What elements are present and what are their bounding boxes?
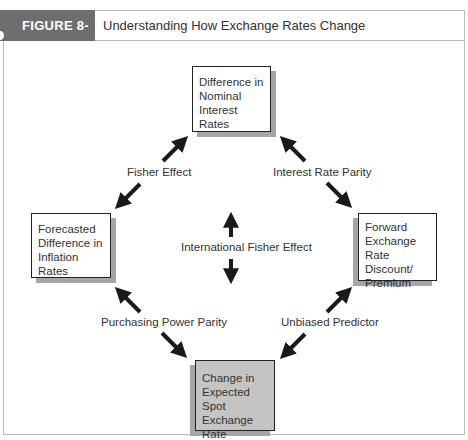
box-line: Interest Rates xyxy=(199,103,264,131)
label-international-fisher-effect: International Fisher Effect xyxy=(181,241,312,253)
box-line: Nominal xyxy=(199,89,264,103)
box-nominal-interest-rates: Difference in Nominal Interest Rates xyxy=(192,66,271,132)
arrow-up-up-icon xyxy=(327,292,347,312)
box-line: Discount/ xyxy=(365,262,430,276)
arrow-irp-up-icon xyxy=(285,141,305,161)
box-line: Difference in xyxy=(38,236,104,250)
box-line: Change in xyxy=(202,371,268,385)
box-forward-rate-premium: Forward Exchange Rate Discount/ Premium xyxy=(358,213,437,281)
box-line: Forward xyxy=(365,220,430,234)
box-line: Premium xyxy=(365,276,430,290)
box-line: Expected Spot xyxy=(202,385,268,413)
label-purchasing-power-parity: Purchasing Power Parity xyxy=(101,316,227,328)
box-line: Exchange Rate xyxy=(202,413,268,440)
label-unbiased-predictor: Unbiased Predictor xyxy=(281,316,379,328)
arrow-irp-down-icon xyxy=(327,183,347,203)
arrow-up-down-icon xyxy=(285,334,305,354)
arrow-fisher-up-icon xyxy=(163,141,183,161)
label-interest-rate-parity: Interest Rate Parity xyxy=(273,166,371,178)
box-inflation-rates: Forecasted Difference in Inflation Rates xyxy=(31,213,111,278)
box-line: Forecasted xyxy=(38,222,104,236)
arrow-ppp-down-icon xyxy=(162,333,182,353)
box-line: Inflation Rates xyxy=(38,250,104,278)
arrow-ppp-up-icon xyxy=(120,292,140,312)
label-fisher-effect: Fisher Effect xyxy=(127,166,191,178)
box-expected-spot-rate: Change in Expected Spot Exchange Rate xyxy=(195,360,275,431)
box-line: Exchange Rate xyxy=(365,234,430,262)
box-line: Difference in xyxy=(199,75,264,89)
arrow-fisher-down-icon xyxy=(120,184,140,204)
